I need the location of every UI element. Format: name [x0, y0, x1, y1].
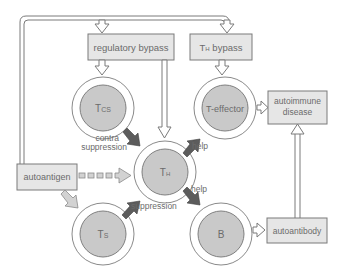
contra-suppression-label-line2: suppression [81, 142, 127, 152]
help-effector-label: help [192, 141, 208, 151]
autoantibody-box: autoantibody [267, 218, 327, 243]
arrow-to-regulatory-bypass [95, 20, 109, 33]
regulatory-bypass-box: regulatory bypass [88, 34, 174, 60]
autoimmune-label-line1: autoimmune [274, 96, 321, 106]
regulatory-bypass-label: regulatory bypass [94, 42, 169, 53]
b-cell: B [190, 203, 252, 265]
autoantigen-box: autoantigen [17, 164, 77, 190]
b-label: B [218, 229, 225, 240]
arrow-autoantigen-to-ts [61, 190, 78, 208]
suppression-label: suppression [131, 201, 177, 211]
immune-regulation-diagram: regulatory bypass TH bypass TCS T-effect… [0, 0, 344, 275]
arrow-regulatory-to-th [158, 60, 171, 138]
arrow-to-th-bypass [220, 20, 234, 33]
t-effector-cell: T-effector [194, 77, 256, 139]
arrow-th-bypass-to-effector [215, 60, 229, 75]
autoimmune-label-line2: disease [283, 107, 313, 117]
arrow-regulatory-to-tcs [95, 60, 109, 75]
th-bypass-box: TH bypass [190, 34, 252, 60]
arrow-antibody-to-disease [291, 124, 304, 218]
autoimmune-disease-box: autoimmune disease [268, 91, 327, 124]
tcs-cell: TCS [72, 77, 134, 139]
arrow-effector-to-disease [257, 101, 268, 114]
arrow-b-to-antibody [253, 223, 265, 237]
autoantigen-label: autoantigen [23, 172, 70, 182]
autoantibody-label: autoantibody [273, 226, 322, 236]
help-b-label: help [191, 184, 207, 194]
t-effector-label: T-effector [206, 104, 244, 114]
dashed-arrow-autoantigen-to-th [79, 168, 131, 183]
